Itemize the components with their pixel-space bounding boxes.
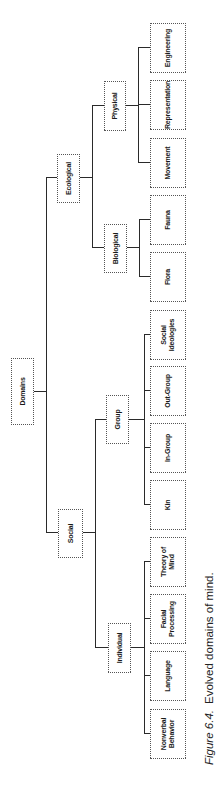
connector-group-stub	[129, 419, 144, 420]
node-individual: Individual	[108, 623, 131, 673]
connector-individual-stub	[131, 647, 144, 648]
connector-leaf	[138, 162, 150, 163]
connector-to-physical	[92, 105, 104, 106]
connector-leaf	[139, 219, 150, 220]
connector-social-stub	[83, 532, 95, 533]
figure-caption: Figure 6.4.Evolved domains of mind.	[202, 505, 216, 765]
node-nonverbal-behavior: Nonverbal Behavior	[150, 709, 186, 759]
connector-to-social	[46, 532, 58, 533]
node-in-group: In-Group	[150, 423, 186, 473]
connector-to-group	[95, 419, 106, 420]
connector-to-individual	[95, 647, 108, 648]
connector-biological-spine	[139, 220, 140, 277]
connector-physical-spine	[138, 48, 139, 163]
node-social: Social	[58, 509, 83, 558]
connector-leaf	[138, 47, 150, 48]
connector-social-spine	[95, 420, 96, 648]
node-language: Language	[150, 651, 186, 701]
connector-biological-stub	[127, 247, 139, 248]
node-engineering: Engineering	[150, 23, 186, 73]
node-movement: Movement	[150, 138, 186, 188]
node-flora: Flora	[150, 252, 186, 302]
connector-ecological-stub	[80, 177, 92, 178]
node-facial-processing: Facial Processing	[150, 594, 186, 644]
connector-level1-spine	[46, 178, 47, 533]
caption-text: Evolved domains of mind.	[203, 572, 215, 704]
node-group: Group	[106, 395, 129, 444]
connector-to-biological	[92, 247, 104, 248]
connector-leaf	[139, 276, 150, 277]
connector-to-ecological	[46, 177, 57, 178]
node-biological: Biological	[104, 224, 127, 273]
connector-ecological-spine	[92, 106, 93, 248]
connector-physical-stub	[126, 105, 138, 106]
domains-tree-diagram: Domains Social Ecological Individual Gro…	[0, 0, 224, 798]
node-domains: Domains	[11, 358, 34, 425]
node-kin: Kin	[150, 480, 186, 530]
connector-individual-spine	[144, 562, 145, 734]
connector-group-spine	[144, 335, 145, 505]
node-theory-of-mind: Theory of Mind	[150, 537, 186, 587]
node-physical: Physical	[104, 81, 126, 131]
figure-label: Figure 6.4.	[203, 710, 215, 765]
node-out-group: Out-Group	[150, 366, 186, 416]
node-fauna: Fauna	[150, 195, 186, 245]
node-social-ideologies: Social Ideologies	[150, 310, 186, 360]
connector-root-stub	[34, 391, 46, 392]
node-ecological: Ecological	[57, 154, 80, 203]
node-representation: Representation	[150, 80, 186, 130]
connector-leaf	[138, 104, 150, 105]
